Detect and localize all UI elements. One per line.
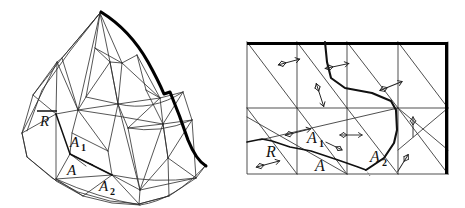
dashed-tail (366, 170, 370, 176)
label-A-left: A (66, 162, 77, 178)
left-panel-group: R A 1 A A 2 (22, 12, 206, 205)
svg-text:1: 1 (81, 142, 86, 153)
arrow-marker-group (256, 57, 416, 173)
svg-text:A: A (98, 178, 109, 194)
svg-text:A: A (69, 134, 80, 150)
arrow-marker (256, 158, 281, 169)
label-R-right: R (265, 143, 276, 160)
svg-text:A: A (369, 148, 380, 165)
label-A1-left: A 1 (69, 134, 86, 153)
svg-text:1: 1 (319, 138, 324, 149)
svg-text:A: A (306, 129, 317, 146)
figure-svg: R A 1 A A 2 (0, 0, 465, 208)
arrow-marker (379, 79, 403, 93)
svg-text:2: 2 (110, 186, 115, 197)
label-R-bar: R (39, 113, 49, 129)
figure-canvas: R A 1 A A 2 (0, 0, 465, 208)
label-A-right: A (314, 157, 325, 174)
bold-boundary-curve-left-figure (101, 12, 206, 166)
svg-text:2: 2 (382, 157, 387, 168)
bold-development-polyline (325, 42, 397, 170)
arrow-marker (410, 117, 415, 137)
arrow-marker (314, 83, 326, 107)
right-thin-edges (247, 42, 448, 174)
label-A2-left: A 2 (98, 178, 115, 197)
bold-edge-A1 (56, 114, 70, 154)
arrow-marker (340, 133, 362, 138)
arrow-marker (325, 140, 343, 152)
label-A1-right: A 1 (306, 129, 324, 149)
right-panel-group: R A 1 A A 2 (247, 42, 448, 176)
